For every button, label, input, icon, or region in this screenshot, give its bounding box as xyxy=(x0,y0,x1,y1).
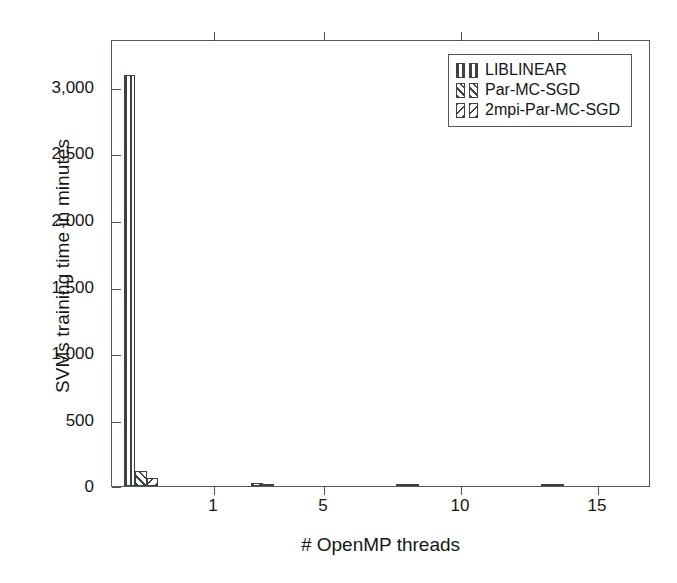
y-tick-mark-2500 xyxy=(112,155,121,156)
y-axis-tick-labels: 3,000 2,500 2,000 1,500 1,000 500 0 xyxy=(0,0,104,583)
x-axis-title: # OpenMP threads xyxy=(111,534,650,556)
x-tick-label-1: 1 xyxy=(208,496,217,516)
x-axis-tick-labels: 1 5 10 15 xyxy=(111,496,650,524)
x-tick-mark-top-10 xyxy=(461,32,462,41)
legend-swatch-backward-hatch-b xyxy=(469,103,478,118)
y-tick-label-0: 0 xyxy=(85,477,94,497)
bar-chart-figure: SVMs training time in minutes 3,000 2,50… xyxy=(0,0,677,583)
x-tick-mark-bottom-15 xyxy=(598,486,599,495)
legend-swatch-group-liblinear xyxy=(456,63,478,78)
y-tick-mark-2000 xyxy=(112,222,121,223)
legend-swatch-vertical-lines-a xyxy=(456,63,465,78)
legend-item-par-mc-sgd: Par-MC-SGD xyxy=(456,80,624,100)
legend-label-2mpi-par-mc-sgd: 2mpi-Par-MC-SGD xyxy=(485,102,620,118)
bar-par-mc-sgd-x5 xyxy=(251,483,263,486)
y-tick-mark-0 xyxy=(112,487,121,488)
x-tick-mark-bottom-10 xyxy=(461,486,462,495)
x-tick-mark-bottom-1 xyxy=(214,486,215,495)
legend-swatch-forward-hatch-a xyxy=(456,83,465,98)
y-tick-mark-3000 xyxy=(112,89,121,90)
y-tick-label-1500: 1,500 xyxy=(51,278,94,298)
legend-swatch-vertical-lines-b xyxy=(469,63,478,78)
bar-par-mc-sgd-x15 xyxy=(541,484,553,486)
y-tick-label-2000: 2,000 xyxy=(51,211,94,231)
y-tick-label-2500: 2,500 xyxy=(51,144,94,164)
bar-2mpi-par-mc-sgd-x1 xyxy=(147,478,159,486)
legend-item-liblinear: LIBLINEAR xyxy=(456,60,624,80)
y-tick-mark-1500 xyxy=(112,289,121,290)
y-tick-label-3000: 3,000 xyxy=(51,78,94,98)
plot-area: LIBLINEAR Par-MC-SGD 2mpi-Par-MC-SGD xyxy=(111,40,650,487)
x-tick-label-5: 5 xyxy=(318,496,327,516)
x-tick-mark-top-15 xyxy=(598,32,599,41)
x-tick-mark-top-1 xyxy=(214,32,215,41)
x-tick-mark-top-5 xyxy=(324,32,325,41)
x-tick-label-15: 15 xyxy=(588,496,607,516)
bar-par-mc-sgd-x1 xyxy=(135,471,147,486)
legend: LIBLINEAR Par-MC-SGD 2mpi-Par-MC-SGD xyxy=(448,54,632,127)
legend-swatch-group-2mpi-par-mc-sgd xyxy=(456,103,478,118)
bar-2mpi-par-mc-sgd-x5 xyxy=(263,484,275,486)
legend-swatch-group-par-mc-sgd xyxy=(456,83,478,98)
x-tick-mark-bottom-5 xyxy=(324,486,325,495)
bar-par-mc-sgd-x10 xyxy=(396,484,408,486)
bar-2mpi-par-mc-sgd-x15 xyxy=(552,484,564,486)
legend-swatch-forward-hatch-b xyxy=(469,83,478,98)
x-tick-label-10: 10 xyxy=(451,496,470,516)
legend-label-liblinear: LIBLINEAR xyxy=(485,62,567,78)
legend-swatch-backward-hatch-a xyxy=(456,103,465,118)
bar-2mpi-par-mc-sgd-x10 xyxy=(407,484,419,486)
legend-item-2mpi-par-mc-sgd: 2mpi-Par-MC-SGD xyxy=(456,100,624,120)
y-tick-label-500: 500 xyxy=(66,411,94,431)
bar-liblinear-x1 xyxy=(124,75,136,486)
y-tick-mark-1000 xyxy=(112,355,121,356)
legend-label-par-mc-sgd: Par-MC-SGD xyxy=(485,82,580,98)
y-tick-mark-500 xyxy=(112,422,121,423)
y-tick-label-1000: 1,000 xyxy=(51,344,94,364)
